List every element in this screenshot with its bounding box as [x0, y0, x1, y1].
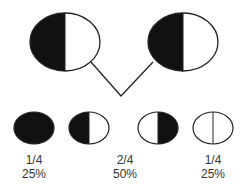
parent-2-ellipse — [148, 13, 218, 71]
percent-text: 50% — [100, 167, 150, 181]
offspring-3-ellipse — [138, 112, 178, 144]
cross-connector-line — [91, 62, 153, 96]
ratio-label-2: 2/4 50% — [100, 153, 150, 181]
fraction-text: 1/4 — [188, 153, 238, 167]
parent-1-ellipse — [30, 13, 100, 71]
ratio-label-1: 1/4 25% — [9, 153, 59, 181]
percent-text: 25% — [9, 167, 59, 181]
percent-text: 25% — [188, 167, 238, 181]
fraction-text: 2/4 — [100, 153, 150, 167]
offspring-1-ellipse — [14, 112, 54, 144]
fraction-text: 1/4 — [9, 153, 59, 167]
offspring-4-ellipse — [193, 112, 233, 144]
offspring-2-ellipse — [69, 112, 109, 144]
ratio-label-3: 1/4 25% — [188, 153, 238, 181]
